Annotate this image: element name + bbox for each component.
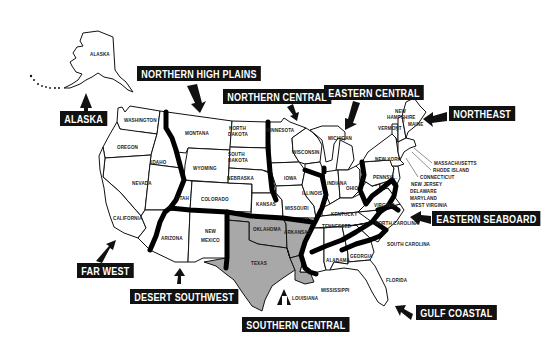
- arrow-northern-high-plains: [187, 84, 206, 113]
- svg-text:UTAH: UTAH: [176, 196, 189, 201]
- svg-text:MAINE: MAINE: [408, 122, 423, 127]
- region-label-northern-high-plains: NORTHERN HIGH PLAINS: [137, 66, 261, 81]
- arrow-far-west: [96, 240, 116, 263]
- svg-text:NORTH CAROLINA: NORTH CAROLINA: [375, 221, 419, 226]
- svg-text:DELAWARE: DELAWARE: [410, 189, 437, 194]
- svg-text:GEORGIA: GEORGIA: [350, 254, 373, 259]
- svg-text:DAKOTA: DAKOTA: [228, 132, 248, 137]
- svg-text:IOWA: IOWA: [284, 176, 297, 181]
- svg-text:NEW: NEW: [395, 109, 407, 114]
- arrow-gulf-coastal: [395, 305, 413, 320]
- svg-text:HAMPSHIRE: HAMPSHIRE: [387, 115, 415, 120]
- svg-text:MEXICO: MEXICO: [201, 238, 220, 243]
- svg-text:OHIO: OHIO: [346, 186, 358, 191]
- svg-text:MISSISSIPPI: MISSISSIPPI: [321, 288, 349, 293]
- svg-text:INDIANA: INDIANA: [327, 181, 347, 186]
- svg-text:LOUISIANA: LOUISIANA: [292, 296, 319, 301]
- svg-text:MONTANA: MONTANA: [185, 131, 209, 136]
- svg-text:PENNSYL.: PENNSYL.: [373, 175, 397, 180]
- svg-text:KANSAS: KANSAS: [256, 202, 276, 207]
- svg-text:NEVADA: NEVADA: [132, 181, 152, 186]
- svg-text:VIRGINIA: VIRGINIA: [374, 203, 396, 208]
- svg-text:MISSOURI: MISSOURI: [285, 206, 309, 211]
- svg-text:NEBRASKA: NEBRASKA: [227, 176, 254, 181]
- arrow-northeast: [423, 112, 447, 127]
- region-label-eastern-central: EASTERN CENTRAL: [324, 85, 424, 100]
- svg-text:NEW YORK: NEW YORK: [375, 157, 402, 162]
- svg-text:RHODE ISLAND: RHODE ISLAND: [433, 168, 470, 173]
- svg-text:CALIFORNIA: CALIFORNIA: [113, 216, 143, 221]
- svg-text:WISCONSIN: WISCONSIN: [292, 150, 320, 155]
- arrow-alaska: [80, 93, 92, 112]
- svg-text:MARYLAND: MARYLAND: [410, 196, 437, 201]
- svg-text:SOUTH: SOUTH: [228, 152, 245, 157]
- svg-text:ALASKA: ALASKA: [90, 52, 110, 57]
- svg-text:KENTUCKY: KENTUCKY: [331, 212, 357, 217]
- region-label-desert-southwest: DESERT SOUTHWEST: [130, 289, 238, 304]
- svg-text:NEW JERSEY: NEW JERSEY: [411, 182, 442, 187]
- region-label-northeast: NORTHEAST: [449, 106, 515, 121]
- svg-text:MINNESOTA: MINNESOTA: [266, 128, 295, 133]
- svg-text:ARIZONA: ARIZONA: [161, 236, 183, 241]
- region-label-alaska: ALASKA: [60, 111, 107, 126]
- svg-text:NEW: NEW: [205, 229, 217, 234]
- svg-text:WASHINGTON: WASHINGTON: [124, 118, 157, 123]
- svg-text:DAKOTA: DAKOTA: [228, 158, 248, 163]
- state-alaska: ALASKA: [30, 31, 133, 92]
- svg-text:IDAHO: IDAHO: [151, 160, 167, 165]
- svg-text:CONNECTICUT: CONNECTICUT: [420, 175, 455, 180]
- arrow-eastern-central: [345, 101, 360, 130]
- svg-text:WEST VIRGINIA: WEST VIRGINIA: [411, 203, 448, 208]
- svg-text:FLORIDA: FLORIDA: [386, 278, 408, 283]
- region-label-eastern-seaboard: EASTERN SEABOARD: [432, 211, 541, 226]
- svg-text:SOUTH CAROLINA: SOUTH CAROLINA: [387, 242, 431, 247]
- svg-text:OREGON: OREGON: [117, 145, 139, 150]
- arrow-southern-central: [277, 289, 291, 305]
- svg-text:MICHIGAN: MICHIGAN: [328, 136, 353, 141]
- svg-text:WYOMING: WYOMING: [193, 166, 217, 171]
- region-label-gulf-coastal: GULF COASTAL: [416, 305, 497, 320]
- svg-text:COLORADO: COLORADO: [201, 197, 229, 202]
- svg-text:ALABAMA: ALABAMA: [326, 258, 351, 263]
- svg-text:ARKANSAS: ARKANSAS: [284, 230, 311, 235]
- arrow-northern-central: [287, 104, 299, 121]
- svg-text:OKLAHOMA: OKLAHOMA: [253, 227, 281, 232]
- svg-text:TEXAS: TEXAS: [251, 261, 267, 266]
- us-regions-map: ALASKA: [0, 0, 551, 348]
- svg-text:MASSACHUSETTS: MASSACHUSETTS: [434, 161, 477, 166]
- svg-text:ILLINOIS: ILLINOIS: [302, 191, 322, 196]
- svg-text:VERMONT: VERMONT: [378, 126, 402, 131]
- svg-text:NORTH: NORTH: [229, 126, 246, 131]
- region-label-far-west: FAR WEST: [77, 263, 134, 278]
- region-label-southern-central: SOUTHERN CENTRAL: [242, 317, 350, 332]
- svg-text:TENNESSEE: TENNESSEE: [322, 224, 351, 229]
- region-label-northern-central: NORTHERN CENTRAL: [223, 89, 331, 104]
- arrow-desert-southwest: [174, 268, 185, 284]
